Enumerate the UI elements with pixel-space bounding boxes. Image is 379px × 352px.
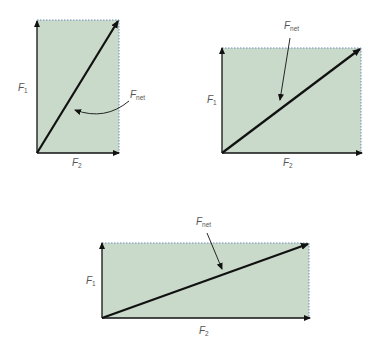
f2-label: F2	[283, 157, 293, 169]
f2-label: F2	[199, 325, 209, 337]
f1-label: F1	[86, 275, 96, 287]
fnet-label: Fnet	[130, 89, 145, 101]
diagram-wide: F1 F2 Fnet	[207, 20, 362, 169]
f2-label: F2	[72, 157, 82, 169]
diagram-tall: F1 F2 Fnet	[18, 20, 145, 169]
fnet-label: Fnet	[196, 216, 211, 228]
vector-addition-figure: F1 F2 Fnet F1 F2 Fnet F1 F2 Fnet	[0, 0, 379, 352]
fnet-label: Fnet	[284, 20, 299, 32]
diagram-long: F1 F2 Fnet	[86, 216, 310, 337]
f1-label: F1	[207, 94, 217, 106]
f1-label: F1	[18, 82, 28, 94]
